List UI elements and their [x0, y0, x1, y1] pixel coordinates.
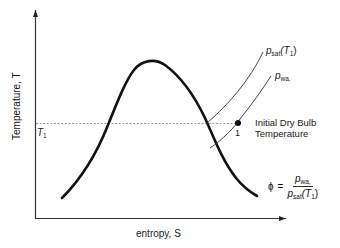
fraction-numerator: pwa,: [293, 173, 313, 187]
psat-curve-label: psat(T1): [266, 46, 297, 58]
initial-dry-bulb-label: Initial Dry Bulb: [255, 118, 316, 128]
psat-isobar-curve: [207, 52, 263, 123]
state-point-1: [235, 120, 241, 126]
pwa-curve-label: pwa,: [275, 71, 291, 83]
t1-label: T1: [37, 128, 47, 140]
equals-sign: =: [278, 181, 284, 192]
y-axis-label: Temperature, T: [11, 72, 22, 140]
point-1-label: 1: [235, 129, 240, 138]
fraction-denominator: psat(T1): [287, 187, 318, 200]
temperature-label: Temperature: [255, 129, 308, 139]
fraction: pwa, psat(T1): [287, 173, 318, 200]
saturation-dome-curve: [62, 61, 257, 198]
relative-humidity-formula: ϕ = pwa, psat(T1): [268, 173, 318, 200]
phi-symbol: ϕ: [268, 181, 274, 192]
x-axis-label: entropy, S: [136, 229, 181, 239]
